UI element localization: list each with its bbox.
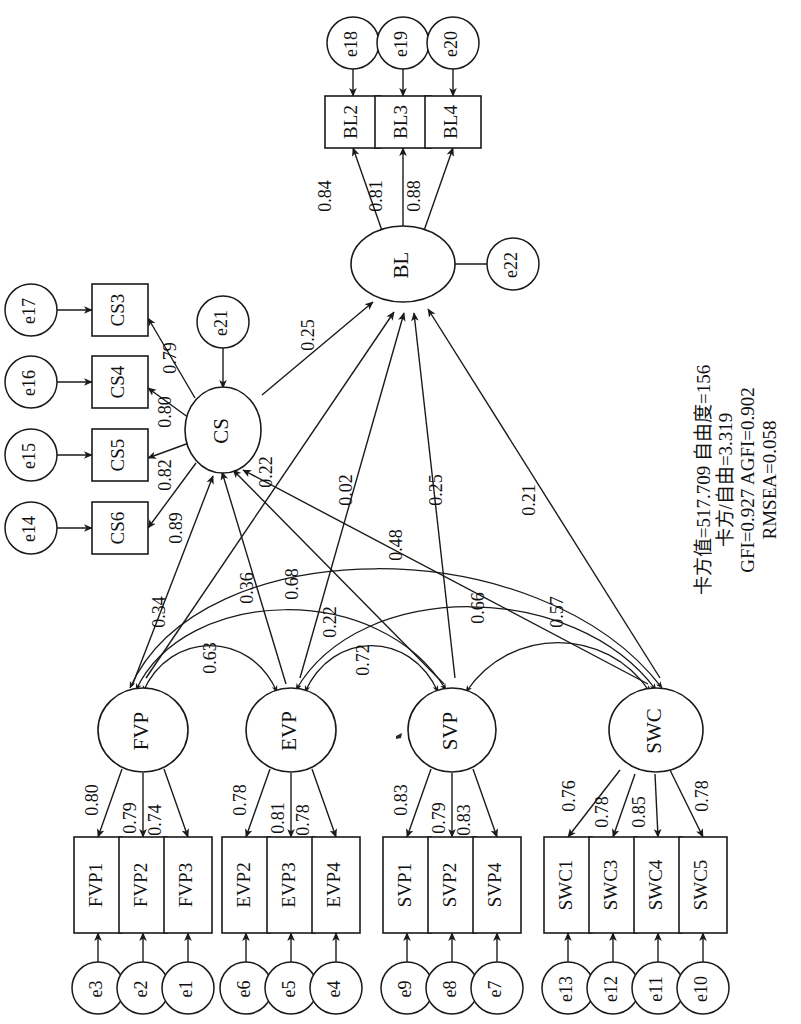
indicator-label-fvp2: FVP2 bbox=[130, 863, 151, 907]
coef-label-fvp-bl: 0.02 bbox=[336, 474, 356, 506]
indicator-label-svp4: SVP4 bbox=[484, 862, 505, 907]
coef-label-cs5: 0.82 bbox=[155, 459, 175, 491]
coef-label-evp2: 0.78 bbox=[230, 784, 250, 816]
coef-label-svp2: 0.79 bbox=[429, 802, 449, 834]
coef-label-svp4: 0.83 bbox=[454, 804, 474, 836]
indicator-label-bl3: BL3 bbox=[390, 105, 411, 139]
error-label-e17: e17 bbox=[19, 298, 39, 324]
coef-label-swc-cs: 0.22 bbox=[320, 606, 340, 638]
coef-label-fvp-evp: 0.63 bbox=[200, 642, 220, 674]
indicator-label-cs4: CS4 bbox=[107, 365, 128, 398]
path-fvp-to-bl bbox=[146, 312, 394, 678]
coef-label-swc3: 0.78 bbox=[592, 796, 612, 828]
latent-label-bl: BL bbox=[389, 252, 413, 279]
error-label-e11: e11 bbox=[646, 976, 666, 1001]
loading-svp-svp4 bbox=[473, 769, 497, 837]
cov-arc-fvp-svp bbox=[136, 610, 446, 690]
coef-label-evp-svp: 0.72 bbox=[353, 644, 373, 676]
diagram-canvas: BL CS FVP EVP SVP SWC BL2 BL3 BL4 CS3 CS… bbox=[0, 0, 801, 1024]
coef-label-evp-bl: 0.48 bbox=[386, 529, 406, 561]
coef-label-swc1: 0.76 bbox=[559, 780, 579, 812]
scan-artifact-speck bbox=[396, 733, 402, 739]
indicator-label-swc5: SWC5 bbox=[690, 860, 711, 911]
coef-label-fvp2: 0.79 bbox=[120, 802, 140, 834]
error-label-e8: e8 bbox=[440, 981, 460, 998]
error-label-e16: e16 bbox=[19, 370, 39, 396]
coef-label-swc-bl: 0.21 bbox=[519, 484, 539, 516]
coef-label-evp4: 0.78 bbox=[293, 804, 313, 836]
error-label-e6: e6 bbox=[234, 981, 254, 998]
indicator-label-bl4: BL4 bbox=[440, 105, 461, 139]
indicator-label-evp2: EVP2 bbox=[233, 862, 254, 907]
coef-label-swc4: 0.85 bbox=[629, 796, 649, 828]
coef-label-cs6: 0.89 bbox=[166, 512, 186, 544]
latent-label-cs: CS bbox=[209, 418, 233, 444]
coef-label-bl4: 0.88 bbox=[404, 180, 424, 212]
fit-stat-line-2: 卡方/自由=3.319 bbox=[715, 413, 736, 548]
error-label-e22: e22 bbox=[501, 252, 521, 278]
latent-label-fvp: FVP bbox=[129, 712, 153, 751]
error-label-e1: e1 bbox=[176, 981, 196, 998]
path-swc-to-bl bbox=[428, 309, 660, 678]
error-label-e5: e5 bbox=[279, 981, 299, 998]
coef-label-svp-cs: 0.22 bbox=[256, 456, 276, 488]
fit-stat-line-1: 卡方值=517.709 自由度=156 bbox=[693, 365, 714, 595]
coef-label-cs3: 0.79 bbox=[160, 342, 180, 374]
coef-label-evp3: 0.81 bbox=[268, 802, 288, 834]
indicator-label-swc1: SWC1 bbox=[555, 860, 576, 911]
loading-evp-evp4 bbox=[312, 769, 336, 837]
error-label-e7: e7 bbox=[485, 981, 505, 998]
indicator-label-bl2: BL2 bbox=[340, 105, 361, 139]
coef-label-svp-swc: 0.57 bbox=[547, 596, 567, 628]
coef-label-evp-swc: 0.66 bbox=[468, 592, 488, 624]
indicator-label-cs5: CS5 bbox=[107, 439, 128, 472]
indicator-label-swc3: SWC3 bbox=[600, 860, 621, 911]
indicator-label-svp1: SVP1 bbox=[394, 863, 415, 907]
indicator-label-evp4: EVP4 bbox=[323, 862, 344, 908]
coef-label-fvp1: 0.80 bbox=[82, 784, 102, 816]
error-label-e15: e15 bbox=[19, 443, 39, 469]
coef-label-cs4: 0.80 bbox=[155, 396, 175, 428]
sem-path-diagram: BL CS FVP EVP SVP SWC BL2 BL3 BL4 CS3 CS… bbox=[0, 0, 801, 1024]
cov-arc-svp-swc bbox=[466, 643, 650, 693]
indicator-label-swc4: SWC4 bbox=[645, 859, 666, 910]
latent-label-svp: SVP bbox=[438, 712, 462, 751]
error-label-e4: e4 bbox=[324, 981, 344, 998]
coef-label-evp-cs: 0.36 bbox=[237, 572, 257, 604]
indicator-label-fvp3: FVP3 bbox=[175, 863, 196, 907]
indicator-label-fvp1: FVP1 bbox=[85, 863, 106, 907]
coef-label-bl2: 0.84 bbox=[315, 180, 335, 212]
coef-label-svp-bl: 0.25 bbox=[426, 474, 446, 506]
error-label-e14: e14 bbox=[19, 516, 39, 542]
error-label-e12: e12 bbox=[601, 976, 621, 1002]
coef-label-fvp-swc: 0.68 bbox=[282, 568, 302, 600]
indicator-label-cs6: CS6 bbox=[107, 512, 128, 545]
loading-swc-swc4 bbox=[655, 774, 658, 837]
coef-label-svp1: 0.83 bbox=[391, 784, 411, 816]
indicator-label-evp3: EVP3 bbox=[278, 862, 299, 907]
coef-label-cs-bl: 0.25 bbox=[298, 319, 318, 351]
coef-label-bl3: 0.81 bbox=[366, 180, 386, 212]
coef-label-swc5: 0.78 bbox=[692, 780, 712, 812]
coef-label-fvp3: 0.74 bbox=[145, 804, 165, 836]
error-label-e19: e19 bbox=[391, 31, 411, 57]
coef-label-fvp-cs: 0.34 bbox=[149, 596, 169, 628]
latent-factor-nodes: BL CS FVP EVP SVP SWC bbox=[98, 226, 703, 772]
fit-stat-line-3: GFI=0.927 AGFI=0.902 bbox=[737, 387, 758, 573]
error-label-e2: e2 bbox=[131, 981, 151, 998]
error-label-e21: e21 bbox=[211, 310, 231, 336]
latent-label-evp: EVP bbox=[277, 711, 301, 751]
loading-fvp-fvp3 bbox=[164, 769, 188, 837]
indicator-label-cs3: CS3 bbox=[107, 294, 128, 327]
fit-stat-line-4: RMSEA=0.058 bbox=[759, 421, 780, 540]
error-label-e3: e3 bbox=[86, 981, 106, 998]
loading-bl-bl4 bbox=[420, 148, 453, 242]
fit-statistics-block: 卡方值=517.709 自由度=156 卡方/自由=3.319 GFI=0.92… bbox=[693, 365, 780, 595]
error-label-e13: e13 bbox=[556, 976, 576, 1002]
error-label-e20: e20 bbox=[441, 31, 461, 57]
indicator-label-svp2: SVP2 bbox=[439, 863, 460, 907]
latent-label-swc: SWC bbox=[642, 708, 666, 754]
error-label-e18: e18 bbox=[341, 31, 361, 57]
loading-cs-cs5 bbox=[148, 443, 189, 458]
error-label-e10: e10 bbox=[691, 976, 711, 1002]
